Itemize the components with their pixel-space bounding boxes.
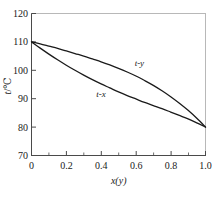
x-axis-title: x(y) xyxy=(110,175,127,187)
y-tick-label-70: 70 xyxy=(18,150,28,161)
y-axis-title: t/℃ xyxy=(2,78,13,95)
y-axis-title-unit: ℃ xyxy=(2,78,13,89)
x-tick-label-0.6: 0.6 xyxy=(130,160,143,171)
y-tick-label-120: 120 xyxy=(13,8,28,19)
y-tick-label-80: 80 xyxy=(18,122,28,133)
y-tick-label-100: 100 xyxy=(13,65,28,76)
bubble-point-curve xyxy=(32,42,206,127)
x-tick-label-0.2: 0.2 xyxy=(60,160,73,171)
bubble-point-curve-label: t-x xyxy=(96,89,106,99)
x-tick-label-1.0: 1.0 xyxy=(199,160,212,171)
vle-phase-diagram-figure: 70 80 90 100 110 120 0 0.2 0.4 0.6 0.8 1… xyxy=(0,0,221,213)
dew-point-curve-label: t-y xyxy=(135,58,145,68)
y-axis-tick-labels: 70 80 90 100 110 120 xyxy=(13,8,28,161)
y-axis-major-ticks xyxy=(32,14,37,156)
x-tick-label-0.8: 0.8 xyxy=(165,160,178,171)
x-axis-tick-labels: 0 0.2 0.4 0.6 0.8 1.0 xyxy=(29,160,212,171)
y-tick-label-90: 90 xyxy=(18,93,28,104)
x-tick-label-0: 0 xyxy=(29,160,34,171)
y-tick-label-110: 110 xyxy=(13,36,28,47)
dew-point-curve xyxy=(32,42,206,127)
chart-canvas: 70 80 90 100 110 120 0 0.2 0.4 0.6 0.8 1… xyxy=(0,0,221,213)
plot-frame xyxy=(31,14,206,156)
x-tick-label-0.4: 0.4 xyxy=(95,160,108,171)
